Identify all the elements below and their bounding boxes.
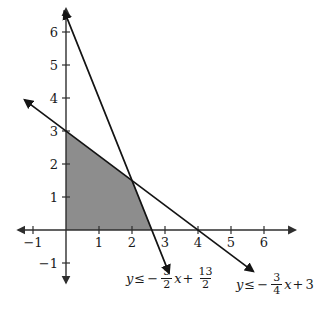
eq1-variable-y: y bbox=[126, 271, 133, 286]
eq2-fraction-slope: 3 4 bbox=[271, 272, 282, 297]
eq2-variable-x: x bbox=[284, 277, 291, 292]
eq1-variable-x: x bbox=[174, 271, 181, 286]
eq2-constant: 3 bbox=[305, 277, 313, 292]
eq2-minus-sign: − bbox=[257, 277, 268, 292]
x-tick-label: 6 bbox=[260, 235, 268, 250]
y-tick-label: 6 bbox=[50, 25, 58, 40]
boundary-line-2 bbox=[25, 100, 253, 271]
inequality-label-2: y ≤ − 3 4 x + 3 bbox=[236, 272, 315, 297]
x-tick-label: 5 bbox=[227, 235, 235, 250]
solution-region bbox=[66, 131, 152, 230]
graph-canvas: −1123456−1123456 y ≤ − 5 2 x + 13 2 y ≤ … bbox=[0, 0, 318, 311]
eq1-fraction-intercept: 13 2 bbox=[196, 266, 214, 291]
y-tick-label: 5 bbox=[50, 58, 58, 73]
eq1-intercept-denominator: 2 bbox=[200, 278, 211, 291]
inequality-label-1: y ≤ − 5 2 x + 13 2 bbox=[126, 266, 216, 291]
x-tick-label: 3 bbox=[161, 235, 169, 250]
y-tick-label: 4 bbox=[50, 91, 58, 106]
eq2-plus-sign: + bbox=[293, 277, 304, 292]
y-tick-label: 2 bbox=[50, 157, 58, 172]
eq2-variable-y: y bbox=[236, 277, 243, 292]
eq1-plus-sign: + bbox=[183, 271, 194, 286]
eq1-minus-sign: − bbox=[147, 271, 158, 286]
x-tick-label: −1 bbox=[23, 235, 42, 250]
eq2-relation: ≤ bbox=[244, 277, 255, 292]
eq1-intercept-numerator: 13 bbox=[196, 266, 214, 278]
eq2-slope-denominator: 4 bbox=[271, 284, 282, 297]
eq1-slope-numerator: 5 bbox=[161, 266, 172, 278]
eq1-fraction-slope: 5 2 bbox=[161, 266, 172, 291]
y-tick-label: 3 bbox=[50, 124, 58, 139]
y-tick-label: 1 bbox=[50, 190, 58, 205]
x-tick-label: 1 bbox=[95, 235, 103, 250]
coordinate-plane: −1123456−1123456 bbox=[0, 0, 318, 311]
eq1-relation: ≤ bbox=[134, 271, 145, 286]
eq1-slope-denominator: 2 bbox=[161, 278, 172, 291]
y-tick-label: −1 bbox=[39, 256, 58, 271]
plot-layer: −1123456−1123456 bbox=[18, 9, 295, 283]
x-tick-label: 2 bbox=[128, 235, 136, 250]
eq2-slope-numerator: 3 bbox=[271, 272, 282, 284]
x-tick-label: 4 bbox=[194, 235, 202, 250]
